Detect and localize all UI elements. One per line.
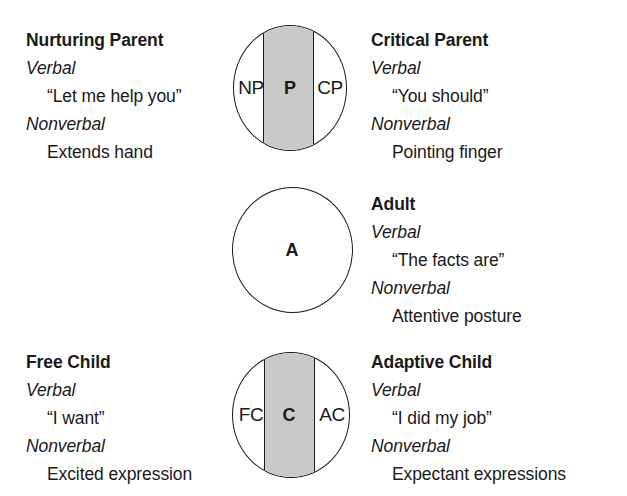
free-child-verbal-value: “I want”: [26, 404, 231, 432]
nurturing-parent-abbrev: NP: [238, 77, 264, 99]
adaptive-child-abbrev: AC: [319, 404, 345, 426]
ego-state-row-adult: A Adult Verbal “The facts are” Nonverbal…: [0, 176, 627, 348]
adult-nonverbal-value: Attentive posture: [371, 302, 623, 330]
adult-nonverbal-label: Nonverbal: [371, 274, 623, 302]
free-child-abbrev: FC: [239, 404, 264, 426]
critical-parent-block: Critical Parent Verbal “You should” Nonv…: [371, 26, 623, 166]
ego-state-row-child: Free Child Verbal “I want” Nonverbal Exc…: [0, 348, 627, 496]
adult-verbal-label: Verbal: [371, 218, 623, 246]
ego-state-row-parent: Nurturing Parent Verbal “Let me help you…: [0, 0, 627, 176]
free-child-verbal-label: Verbal: [26, 376, 231, 404]
critical-parent-title: Critical Parent: [371, 26, 623, 54]
child-center-letter: C: [283, 405, 296, 426]
adult-verbal-value: “The facts are”: [371, 246, 623, 274]
adaptive-child-nonverbal-label: Nonverbal: [371, 432, 623, 460]
free-child-block: Free Child Verbal “I want” Nonverbal Exc…: [26, 348, 231, 488]
adaptive-child-verbal-label: Verbal: [371, 376, 623, 404]
nurturing-parent-nonverbal-label: Nonverbal: [26, 110, 231, 138]
critical-parent-abbrev: CP: [317, 77, 343, 99]
free-child-nonverbal-label: Nonverbal: [26, 432, 231, 460]
adult-title: Adult: [371, 190, 623, 218]
adaptive-child-nonverbal-value: Expectant expressions: [371, 460, 623, 488]
nurturing-parent-nonverbal-value: Extends hand: [26, 138, 231, 166]
adult-center-letter: A: [286, 240, 299, 261]
critical-parent-nonverbal-value: Pointing finger: [371, 138, 623, 166]
adaptive-child-title: Adaptive Child: [371, 348, 623, 376]
adaptive-child-block: Adaptive Child Verbal “I did my job” Non…: [371, 348, 623, 488]
critical-parent-nonverbal-label: Nonverbal: [371, 110, 623, 138]
nurturing-parent-verbal-value: “Let me help you”: [26, 82, 231, 110]
critical-parent-verbal-label: Verbal: [371, 54, 623, 82]
adaptive-child-verbal-value: “I did my job”: [371, 404, 623, 432]
free-child-nonverbal-value: Excited expression: [26, 460, 231, 488]
parent-center-letter: P: [284, 78, 296, 99]
free-child-title: Free Child: [26, 348, 231, 376]
adult-block: Adult Verbal “The facts are” Nonverbal A…: [371, 190, 623, 330]
critical-parent-verbal-value: “You should”: [371, 82, 623, 110]
nurturing-parent-verbal-label: Verbal: [26, 54, 231, 82]
nurturing-parent-block: Nurturing Parent Verbal “Let me help you…: [26, 26, 231, 166]
nurturing-parent-title: Nurturing Parent: [26, 26, 231, 54]
